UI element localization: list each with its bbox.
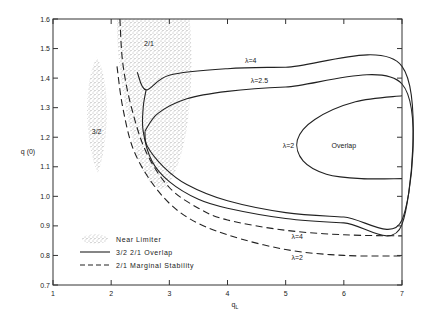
legend: Near Limiter3/2 2/1 Overlap2/1 Marginal … [80, 235, 194, 270]
y-tick-label: 1.1 [40, 163, 50, 170]
near-limiter-region-2-1 [117, 19, 191, 189]
near-limiter-regions [87, 19, 191, 189]
annotation-3-2: 3/2 [92, 128, 102, 135]
x-tick-label: 1 [51, 290, 55, 297]
y-tick-label: 0.9 [40, 222, 50, 229]
curve-label: λ=2 [291, 254, 303, 261]
legend-swatch-stippled [82, 235, 108, 244]
curve-label: λ=2 [283, 142, 295, 149]
curve-label: λ=4 [291, 233, 303, 240]
x-tick-label: 5 [284, 290, 288, 297]
axes: 12345670.70.80.91.01.11.21.31.41.51.6q (… [21, 16, 404, 311]
x-tick-label: 4 [226, 290, 230, 297]
y-tick-label: 1.0 [40, 193, 50, 200]
annotation-overlap: Overlap [332, 142, 357, 150]
legend-label: 3/2 2/1 Overlap [116, 249, 173, 257]
y-axis-title: q (0) [21, 148, 35, 156]
chart: 12345670.70.80.91.01.11.21.31.41.51.6q (… [0, 0, 426, 320]
x-tick-label: 3 [167, 290, 171, 297]
legend-label: 2/1 Marginal Stability [116, 262, 194, 270]
x-axis-title: qL [232, 301, 239, 310]
y-tick-label: 1.5 [40, 45, 50, 52]
legend-label: Near Limiter [116, 236, 161, 243]
curve-label: λ=4 [245, 57, 257, 64]
x-tick-label: 6 [342, 290, 346, 297]
x-tick-label: 2 [109, 290, 113, 297]
y-tick-label: 0.7 [40, 282, 50, 289]
curve-label: λ=2.5 [251, 77, 268, 84]
y-tick-label: 1.4 [40, 75, 50, 82]
near-limiter-region-3-2 [87, 57, 107, 172]
y-tick-label: 1.2 [40, 134, 50, 141]
y-tick-label: 1.6 [40, 16, 50, 23]
plot-frame [53, 19, 402, 285]
overlap-curve-2 [297, 96, 402, 179]
annotation-2-1: 2/1 [144, 40, 154, 47]
x-tick-label: 7 [400, 290, 404, 297]
y-tick-label: 0.8 [40, 252, 50, 259]
y-tick-label: 1.3 [40, 104, 50, 111]
